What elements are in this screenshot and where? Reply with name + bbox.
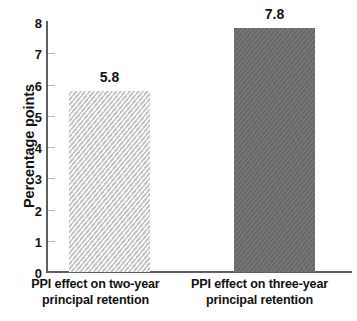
y-tick-label: 0 bbox=[26, 273, 42, 274]
category-label-line: PPI effect on three-year bbox=[191, 277, 328, 291]
bar bbox=[69, 91, 150, 272]
y-tick-label: 1 bbox=[26, 241, 42, 242]
cut-off-caption bbox=[44, 313, 316, 321]
bar-value-label: 5.8 bbox=[69, 69, 150, 85]
category-label-line: PPI effect on two-year bbox=[31, 277, 159, 291]
x-axis-category-label: PPI effect on two-yearprincipal retentio… bbox=[19, 277, 172, 308]
y-tick-label: 8 bbox=[26, 23, 42, 24]
y-tick-label: 3 bbox=[26, 179, 42, 180]
y-tick-label: 7 bbox=[26, 54, 42, 55]
category-label-line: principal retention bbox=[183, 293, 336, 309]
bar bbox=[234, 28, 315, 272]
y-tick-label: 5 bbox=[26, 116, 42, 117]
plot-area bbox=[47, 22, 352, 272]
bar-chart: Percentage points 876543210 5.87.8 PPI e… bbox=[0, 0, 357, 321]
y-tick-label: 4 bbox=[26, 148, 42, 149]
bar-value-label: 7.8 bbox=[234, 6, 315, 22]
category-label-line: principal retention bbox=[19, 293, 172, 309]
x-axis-category-label: PPI effect on three-yearprincipal retent… bbox=[183, 277, 336, 308]
y-tick-label: 2 bbox=[26, 210, 42, 211]
y-tick-label: 6 bbox=[26, 85, 42, 86]
